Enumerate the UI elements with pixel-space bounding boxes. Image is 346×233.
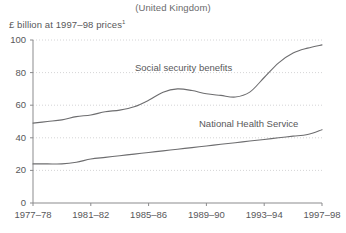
y-tick-label: 100 — [0, 35, 26, 45]
x-tick-label: 1993–94 — [238, 209, 290, 220]
y-tick-label: 80 — [0, 68, 26, 78]
plot-area — [0, 0, 346, 233]
x-tick-label: 1981–82 — [65, 209, 117, 220]
chart-container: (United Kingdom) £ billion at 1997–98 pr… — [0, 0, 346, 233]
x-tick-label: 1985–86 — [123, 209, 175, 220]
series-label-2: National Health Service — [199, 118, 298, 129]
y-tick-label: 40 — [0, 133, 26, 143]
x-tick-label: 1989–90 — [180, 209, 232, 220]
y-tick-label: 0 — [0, 198, 26, 208]
series-line-1 — [33, 45, 322, 123]
gridlines — [33, 40, 322, 170]
series-label-1: Social security benefits — [135, 62, 232, 73]
x-tick-label: 1997–98 — [296, 209, 346, 220]
x-tick-label: 1977–78 — [7, 209, 59, 220]
y-tick-label: 20 — [0, 165, 26, 175]
y-tick-label: 60 — [0, 100, 26, 110]
series-line-2 — [33, 130, 322, 164]
